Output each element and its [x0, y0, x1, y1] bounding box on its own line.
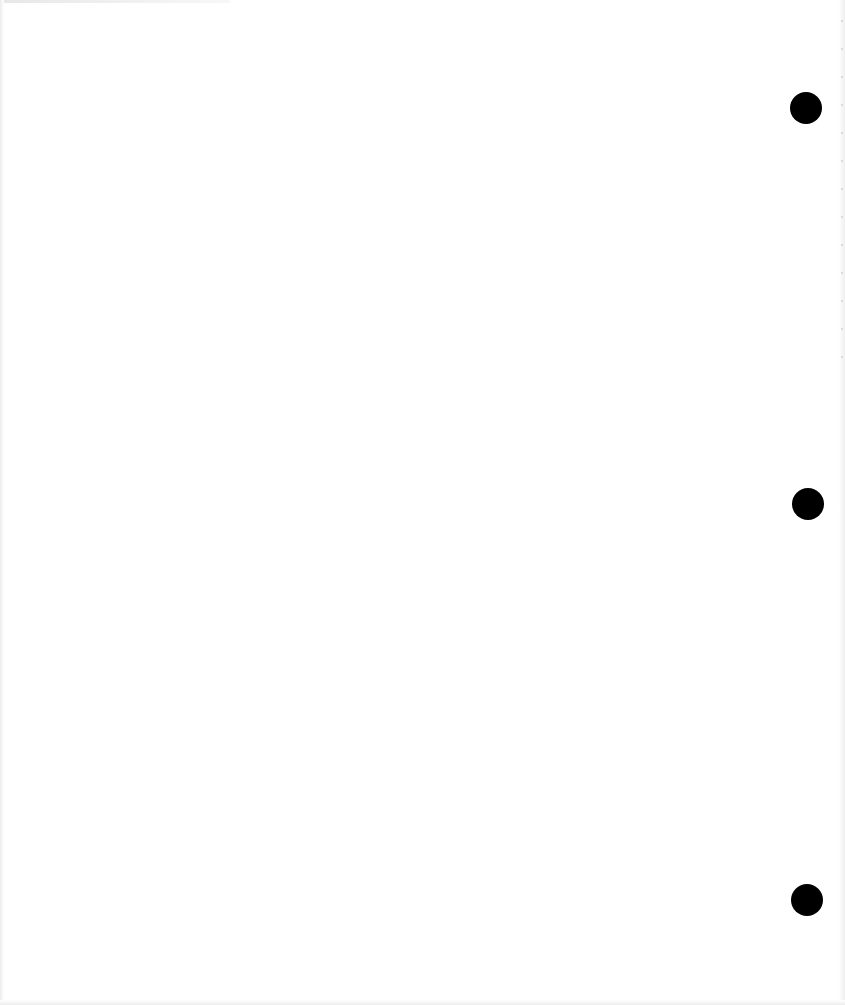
blank-page	[0, 0, 845, 1005]
punch-hole-icon	[792, 488, 824, 520]
punch-hole-icon	[791, 884, 823, 916]
scan-edge-bottom	[0, 1000, 845, 1005]
punch-hole-icon	[790, 92, 822, 124]
scan-edge-marks	[841, 20, 843, 380]
scan-edge-left	[0, 0, 4, 1005]
scan-edge-top	[0, 0, 230, 3]
